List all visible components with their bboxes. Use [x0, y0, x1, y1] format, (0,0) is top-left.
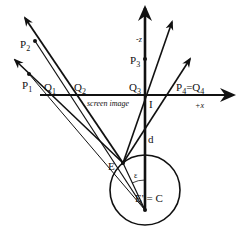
label-q3: Q3	[129, 81, 141, 96]
point-p2	[33, 39, 37, 43]
point-p1	[27, 72, 31, 76]
label-i: I	[149, 98, 153, 110]
label-plus-x: +x	[195, 101, 204, 110]
line-p2-to-c	[35, 41, 145, 210]
label-p1: P1	[22, 79, 32, 94]
ray-p4	[123, 59, 190, 163]
ray-p1	[15, 60, 123, 163]
label-p3: P3	[130, 54, 140, 69]
epsilon-angle-arc	[132, 180, 145, 183]
label-e-prime-eq-c: E' = C	[135, 192, 163, 204]
point-c	[143, 208, 147, 212]
label-screen-image: screen image	[87, 99, 130, 108]
point-p3	[143, 57, 147, 61]
label-epsilon: ε	[134, 171, 138, 180]
label-p4-eq-q4: P4=Q4	[176, 81, 204, 96]
label-d: d	[148, 133, 154, 145]
point-e	[121, 161, 125, 165]
label-minus-z: -z	[136, 35, 143, 44]
perspective-projection-diagram: P2 P1 Q1 Q2 Q3 P3 P4=Q4 screen image I +…	[0, 0, 246, 237]
label-p2: P2	[20, 38, 30, 53]
label-e: E	[108, 160, 115, 172]
